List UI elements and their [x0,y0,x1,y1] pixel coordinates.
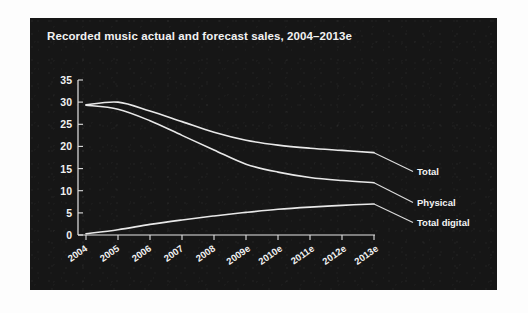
y-tick-label: 15 [60,163,72,175]
leader-line-physical [374,183,413,203]
x-tick-label: 2006 [130,243,154,264]
chart-figure: Recorded music actual and forecast sales… [0,0,528,313]
plot-area: 35 30 25 20 15 10 5 0 [30,18,497,290]
x-tick-label: 2007 [162,243,186,264]
y-tick-labels: 35 30 25 20 15 10 5 0 [60,74,72,241]
x-tick-label: 2004 [66,242,90,264]
y-tick-label: 5 [66,207,72,219]
y-tick-label: 20 [60,140,72,152]
x-tick-label: 2013e [352,243,380,267]
series-line-total-digital [86,204,374,234]
chart-title: Recorded music actual and forecast sales… [47,30,352,42]
x-tick-label: 2010e [256,243,284,267]
series-leader-lines [374,153,413,223]
series-label-total-digital: Total digital [417,217,470,228]
x-tick-label: 2008 [194,243,218,264]
series-labels: Total Physical Total digital [417,166,470,228]
x-tick-label: 2009e [224,243,252,267]
y-tick-label: 10 [60,185,72,197]
y-tick-label: 30 [60,96,72,108]
series-label-physical: Physical [417,197,456,208]
x-tick-label: 2011e [289,243,317,267]
leader-line-total-digital [374,204,413,223]
series-line-total [86,102,374,153]
series-line-physical [86,105,374,183]
y-tick-label: 35 [60,74,72,86]
chart-panel: Recorded music actual and forecast sales… [30,18,497,290]
y-tick-label: 25 [60,118,72,130]
x-tick-label: 2012e [320,243,348,267]
x-tick-label: 2005 [98,242,122,264]
series-lines [86,102,374,234]
x-tick-marks [86,235,374,240]
series-label-total: Total [417,166,439,177]
x-tick-labels: 2004 2005 2006 2007 2008 2009e 2010e 201… [66,242,381,267]
leader-line-total [374,153,413,172]
y-tick-label: 0 [66,229,72,241]
y-tick-marks [78,80,83,235]
